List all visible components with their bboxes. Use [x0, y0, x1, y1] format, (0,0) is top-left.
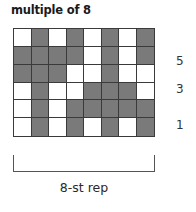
chart-cell-filled — [137, 29, 155, 47]
chart-title: multiple of 8 — [11, 3, 91, 17]
chart-cell-filled — [32, 100, 50, 118]
chart-cell-empty — [119, 47, 137, 65]
chart-cell-filled — [32, 118, 50, 136]
chart-cell-empty — [14, 29, 32, 47]
chart-cell-empty — [49, 83, 67, 101]
chart-cell-empty — [14, 83, 32, 101]
chart-cell-filled — [14, 47, 32, 65]
chart-cell-filled — [32, 83, 50, 101]
chart-cell-empty — [67, 83, 85, 101]
chart-cell-filled — [102, 47, 120, 65]
chart-cell-filled — [102, 29, 120, 47]
chart-cell-empty — [14, 100, 32, 118]
stitch-chart-grid — [13, 28, 155, 137]
chart-cell-empty — [49, 118, 67, 136]
repeat-label: 8-st rep — [13, 180, 155, 195]
chart-cell-filled — [32, 47, 50, 65]
chart-cell-empty — [119, 65, 137, 83]
chart-cell-filled — [102, 100, 120, 118]
chart-cell-empty — [119, 118, 137, 136]
chart-cell-filled — [119, 100, 137, 118]
chart-cell-filled — [67, 118, 85, 136]
chart-cell-empty — [49, 100, 67, 118]
row-label-1: 1 — [176, 118, 184, 132]
chart-cell-filled — [49, 65, 67, 83]
chart-cell-filled — [137, 100, 155, 118]
chart-cell-filled — [67, 100, 85, 118]
chart-cell-filled — [32, 65, 50, 83]
chart-cell-filled — [84, 100, 102, 118]
chart-cell-empty — [67, 65, 85, 83]
chart-cell-empty — [84, 29, 102, 47]
chart-cell-filled — [84, 83, 102, 101]
chart-cell-empty — [137, 65, 155, 83]
chart-cell-filled — [14, 65, 32, 83]
chart-cell-empty — [119, 29, 137, 47]
row-label-5: 5 — [176, 54, 184, 68]
row-label-3: 3 — [176, 82, 184, 96]
chart-cell-empty — [84, 47, 102, 65]
chart-cell-filled — [102, 65, 120, 83]
chart-cell-filled — [67, 47, 85, 65]
chart-cell-empty — [137, 83, 155, 101]
chart-cell-empty — [14, 118, 32, 136]
chart-cell-filled — [137, 118, 155, 136]
chart-cell-filled — [102, 118, 120, 136]
chart-cell-filled — [49, 47, 67, 65]
repeat-bracket — [13, 155, 155, 172]
chart-cell-filled — [67, 29, 85, 47]
chart-cell-filled — [137, 47, 155, 65]
chart-cell-filled — [102, 83, 120, 101]
chart-cell-empty — [84, 118, 102, 136]
chart-cell-empty — [84, 65, 102, 83]
chart-cell-filled — [119, 83, 137, 101]
chart-cell-empty — [49, 29, 67, 47]
chart-cell-filled — [32, 29, 50, 47]
